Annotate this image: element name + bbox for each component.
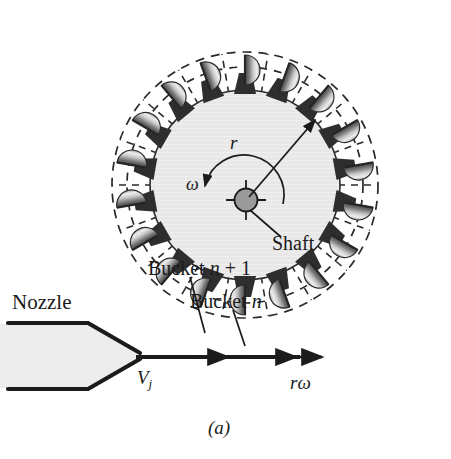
bucket bbox=[332, 190, 375, 222]
bucket-n-label: Bucket n bbox=[190, 291, 262, 311]
angular-velocity-label: ω bbox=[186, 175, 199, 193]
bucket-cup bbox=[341, 202, 373, 222]
bucket-n-variable: n bbox=[252, 290, 262, 312]
figure-caption: (a) bbox=[208, 418, 230, 437]
jet-velocity-subscript: j bbox=[149, 376, 153, 391]
radial-dashed-spoke bbox=[222, 54, 229, 93]
bucket-cup bbox=[245, 55, 260, 85]
jet-velocity-label: Vj bbox=[137, 368, 152, 391]
nozzle-group bbox=[0, 323, 140, 389]
bucket-n-prefix: Bucket bbox=[190, 290, 252, 312]
bucket-n-plus-1-suffix: + 1 bbox=[220, 257, 251, 279]
nozzle-label: Nozzle bbox=[12, 292, 71, 313]
bucket bbox=[262, 267, 300, 313]
bucket-n-plus-1-variable: n bbox=[210, 257, 220, 279]
shaft-label: Shaft bbox=[272, 233, 314, 253]
bucket-cup bbox=[117, 148, 149, 168]
pelton-wheel-figure: Nozzle Bucket n + 1 Bucket n Shaft r ω V… bbox=[0, 0, 451, 459]
radial-dashed-spoke bbox=[261, 54, 268, 93]
bucket bbox=[190, 58, 228, 104]
nozzle-body bbox=[0, 324, 137, 388]
bucket bbox=[266, 59, 304, 105]
bucket bbox=[115, 148, 158, 180]
bucket-n-plus-1-prefix: Bucket bbox=[148, 257, 210, 279]
bucket bbox=[234, 55, 260, 94]
bucket-n-plus-1-label: Bucket n + 1 bbox=[148, 258, 251, 278]
radius-label: r bbox=[230, 133, 237, 152]
jet-velocity-symbol: V bbox=[137, 367, 149, 388]
pelton-wheel-drawing bbox=[0, 0, 451, 459]
bucket-cup-shell bbox=[245, 55, 260, 85]
blade-speed-label: rω bbox=[290, 373, 311, 392]
radial-dashed-spoke bbox=[261, 277, 268, 316]
